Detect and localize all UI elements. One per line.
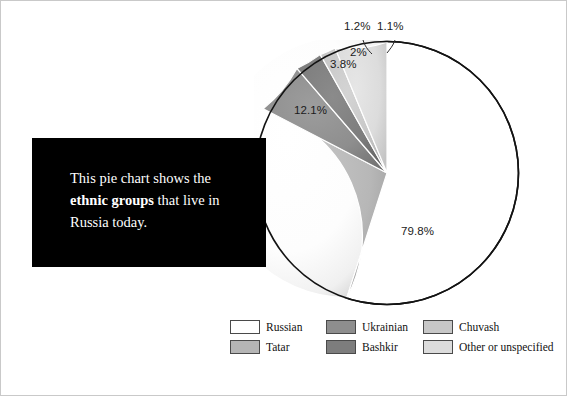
legend-label-tatar: Tatar (266, 341, 289, 353)
pie-label-other: 1.1% (377, 20, 404, 32)
caption-line-2-tail: that live (154, 192, 205, 208)
legend-label-bashkir: Bashkir (362, 341, 398, 353)
legend-label-ukrainian: Ukrainian (362, 321, 408, 333)
legend-swatch-bashkir (326, 340, 356, 354)
legend-swatch-russian (230, 320, 260, 334)
legend-swatch-chuvash (423, 320, 453, 334)
pie-label-russian: 79.8% (401, 225, 434, 237)
legend-swatch-other (423, 340, 453, 354)
legend-swatch-tatar (230, 340, 260, 354)
caption-box: This pie chart shows the ethnic groups t… (32, 138, 266, 267)
pie-label-bashkir: 2% (350, 46, 367, 58)
pie-label-tatar: 12.1% (294, 104, 327, 116)
legend-item-ukrainian[interactable]: Ukrainian (326, 318, 423, 336)
pie-chart-svg (254, 40, 520, 306)
legend-item-bashkir[interactable]: Bashkir (326, 338, 423, 356)
caption-line-1: This pie chart shows the (70, 170, 211, 186)
legend: Russian Ukrainian Chuvash Tatar Bashkir … (230, 318, 554, 356)
pie-label-chuvash: 1.2% (344, 20, 371, 32)
legend-label-chuvash: Chuvash (459, 321, 499, 333)
legend-item-russian[interactable]: Russian (230, 318, 326, 336)
caption-text: This pie chart shows the ethnic groups t… (70, 167, 245, 234)
legend-label-russian: Russian (266, 321, 302, 333)
caption-bold-phrase: ethnic groups (70, 192, 154, 208)
legend-item-tatar[interactable]: Tatar (230, 338, 326, 356)
legend-item-chuvash[interactable]: Chuvash (423, 318, 554, 336)
legend-swatch-ukrainian (326, 320, 356, 334)
legend-label-other: Other or unspecified (459, 341, 554, 353)
chart-page: 79.8% 12.1% 3.8% 2% 1.2% 1.1% This pie c… (0, 0, 567, 396)
legend-item-other[interactable]: Other or unspecified (423, 338, 554, 356)
pie-label-ukrainian: 3.8% (330, 58, 357, 70)
pie-chart (254, 40, 520, 306)
